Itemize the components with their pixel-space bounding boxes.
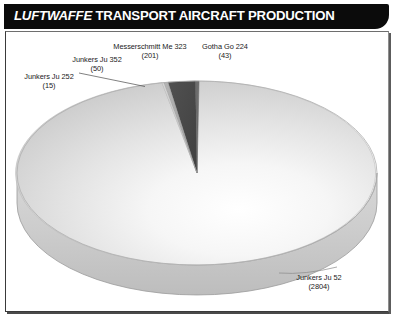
pie-label-value: (2804) (280, 282, 358, 291)
pie-label-junkers-ju-52: Junkers Ju 52 (2804) (280, 273, 358, 291)
chart-title-bar: LUFTWAFFE TRANSPORT AIRCRAFT PRODUCTION (4, 4, 389, 29)
frame-shadow-right (389, 33, 391, 314)
pie-label-name: Messerschmitt Me 323 (113, 42, 186, 51)
pie-label-name: Junkers Ju 252 (24, 72, 73, 81)
pie-label-gotha-go-224: Gotha Go 224 (43) (194, 42, 256, 60)
pie-label-junkers-ju-252: Junkers Ju 252 (15) (12, 72, 86, 90)
title-emphasis: LUFTWAFFE (14, 8, 92, 23)
leader-line-junkers-ju-252 (79, 73, 145, 87)
pie-label-junkers-ju-352: Junkers Ju 352 (50) (62, 55, 132, 73)
frame-shadow-bottom (7, 312, 391, 314)
title-rest: TRANSPORT AIRCRAFT PRODUCTION (92, 8, 335, 23)
pie-label-name: Junkers Ju 352 (72, 55, 121, 64)
page-title: LUFTWAFFE TRANSPORT AIRCRAFT PRODUCTION (14, 8, 335, 23)
pie-label-value: (43) (194, 51, 256, 60)
pie-label-value: (15) (12, 81, 86, 90)
pie-label-name: Gotha Go 224 (202, 42, 248, 51)
pie-label-name: Junkers Ju 52 (296, 273, 341, 282)
